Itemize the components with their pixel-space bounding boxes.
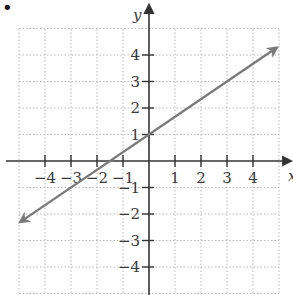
y-tick-label: 2 — [130, 99, 140, 117]
x-tick-label: 2 — [196, 169, 206, 187]
axes — [6, 5, 291, 295]
y-tick-label: −3 — [118, 232, 140, 250]
y-tick-label: 3 — [130, 73, 140, 91]
x-tick-label: 4 — [248, 169, 258, 187]
x-tick-label: −4 — [34, 169, 56, 187]
y-axis-label: y — [132, 6, 142, 24]
x-tick-label: 3 — [222, 169, 232, 187]
x-tick-label: −2 — [86, 169, 108, 187]
y-tick-label: −1 — [118, 179, 140, 197]
x-tick-label: −3 — [60, 169, 82, 187]
y-tick-label: 4 — [130, 46, 140, 64]
coordinate-plane: yx−4−3−2−11234−4−3−2−11234 — [0, 0, 293, 295]
y-tick-label: −2 — [118, 205, 140, 223]
y-tick-label: −4 — [118, 258, 140, 276]
x-axis-label: x — [288, 167, 293, 185]
x-tick-label: 1 — [170, 169, 180, 187]
tick-labels: yx−4−3−2−11234−4−3−2−11234 — [34, 6, 293, 276]
